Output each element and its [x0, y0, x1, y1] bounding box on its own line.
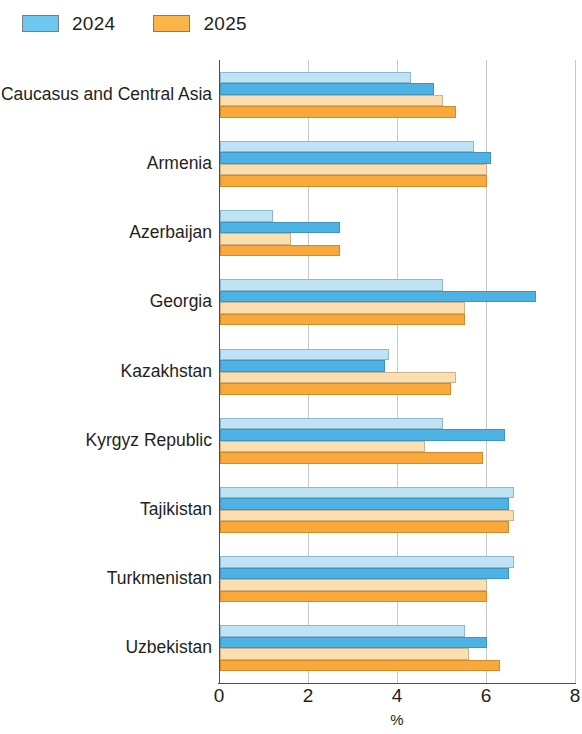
bar — [220, 95, 443, 107]
category-label: Kazakhstan — [0, 363, 212, 381]
bar-group — [220, 349, 576, 395]
bar — [220, 625, 465, 637]
legend-swatch-2024-icon — [22, 15, 59, 32]
bar-group — [220, 279, 576, 325]
chart-legend: 2024 2025 — [22, 10, 285, 36]
bar-group — [220, 141, 576, 187]
bar — [220, 452, 483, 464]
x-tick-label: 4 — [392, 686, 403, 705]
bar — [220, 245, 340, 257]
bar — [220, 175, 487, 187]
bar — [220, 360, 385, 372]
x-tick-label: 0 — [214, 686, 225, 705]
bar-group — [220, 556, 576, 602]
legend-label-2024: 2024 — [72, 14, 115, 33]
bar-group — [220, 625, 576, 671]
bar — [220, 429, 505, 441]
plot-area — [219, 60, 575, 683]
category-label: Armenia — [0, 155, 212, 173]
bar — [220, 314, 465, 326]
category-label: Caucasus and Central Asia — [0, 86, 212, 104]
bar-group — [220, 210, 576, 256]
legend-swatch-2025-icon — [153, 15, 190, 32]
bar — [220, 210, 273, 222]
bar — [220, 164, 487, 176]
bar — [220, 383, 451, 395]
category-label: Kyrgyz Republic — [0, 432, 212, 450]
bar — [220, 521, 509, 533]
bar — [220, 222, 340, 234]
category-label: Georgia — [0, 293, 212, 311]
bar — [220, 579, 487, 591]
bar — [220, 72, 411, 84]
category-label: Turkmenistan — [0, 570, 212, 588]
category-label: Tajikistan — [0, 501, 212, 519]
bar — [220, 591, 487, 603]
bar — [220, 349, 389, 361]
category-axis-labels: Caucasus and Central AsiaArmeniaAzerbaij… — [0, 60, 212, 683]
bar — [220, 106, 456, 118]
bar-group — [220, 418, 576, 464]
x-tick-label: 2 — [303, 686, 314, 705]
bar — [220, 568, 509, 580]
bar — [220, 556, 514, 568]
bar-group — [220, 487, 576, 533]
bar — [220, 372, 456, 384]
legend-label-2025: 2025 — [203, 14, 246, 33]
bar — [220, 141, 474, 153]
category-label: Uzbekistan — [0, 639, 212, 657]
bar — [220, 152, 491, 164]
bar — [220, 487, 514, 499]
bar-group — [220, 72, 576, 118]
bar — [220, 233, 291, 245]
bar — [220, 498, 509, 510]
category-label: Azerbaijan — [0, 224, 212, 242]
bar — [220, 418, 443, 430]
legend-item-2024[interactable]: 2024 — [22, 14, 115, 33]
bar — [220, 510, 514, 522]
bar — [220, 291, 536, 303]
bar — [220, 302, 465, 314]
legend-item-2025[interactable]: 2025 — [153, 14, 246, 33]
bar — [220, 441, 425, 453]
x-tick-label: 6 — [481, 686, 492, 705]
bar — [220, 648, 469, 660]
bar — [220, 660, 500, 672]
x-axis-line — [218, 683, 576, 684]
x-axis-title: % — [219, 712, 575, 727]
bar — [220, 637, 487, 649]
bar — [220, 83, 434, 95]
bar — [220, 279, 443, 291]
x-axis-tick-labels: 02468 — [219, 686, 575, 712]
x-tick-label: 8 — [570, 686, 581, 705]
bar-chart: 2024 2025 Caucasus and Central AsiaArmen… — [0, 0, 582, 734]
